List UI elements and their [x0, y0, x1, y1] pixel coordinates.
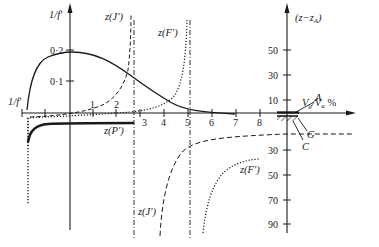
series-zJ-lower — [160, 134, 352, 236]
y-right-tick-90-down: 90 — [268, 219, 278, 230]
x-tick-label-8: 8 — [257, 117, 262, 128]
y-right-axis-label: (z−zA) — [295, 12, 322, 25]
curve-label-inv-f: 1/f' — [8, 96, 22, 107]
label-zJ-top: z(J') — [104, 11, 123, 23]
y-right-tick-30-down: 30 — [268, 145, 278, 156]
y-axis-right: 50 30 10 30 50 70 90 (z−zA) A G C — [268, 3, 322, 233]
chart-svg: 1 2 3 4 5 6 7 8 Vg/Va % 0·2 0·1 1/f' 1/f… — [0, 0, 379, 247]
x-tick-label-6: 6 — [209, 117, 214, 128]
y-left-axis-label: 1/f' — [49, 9, 63, 20]
label-zJ-bottom: z(J') — [137, 206, 156, 218]
x-tick-label-7: 7 — [233, 117, 238, 128]
label-zF-top: z(F') — [157, 27, 178, 39]
y-right-tick-10: 10 — [268, 95, 278, 106]
x-tick-label-1: 1 — [90, 99, 95, 110]
y-left-tick-0.1: 0·1 — [50, 76, 63, 87]
label-C: C — [302, 141, 310, 152]
y-axis-left-arrow-icon — [68, 3, 73, 13]
y-right-tick-50: 50 — [268, 45, 278, 56]
y-right-tick-50-down: 50 — [268, 170, 278, 181]
label-A: A — [314, 92, 322, 103]
y-right-tick-70-down: 70 — [268, 195, 278, 206]
y-axis-right-arrow-icon — [285, 3, 290, 13]
y-right-tick-30: 30 — [268, 70, 278, 81]
x-tick-label-3: 3 — [142, 117, 147, 128]
label-zP: z(P') — [103, 125, 124, 137]
label-zF-bottom: z(F') — [239, 164, 260, 176]
x-tick-label-4: 4 — [161, 117, 166, 128]
chart-figure: 1 2 3 4 5 6 7 8 Vg/Va % 0·2 0·1 1/f' 1/f… — [0, 0, 379, 247]
x-axis-arrow-icon — [346, 111, 356, 116]
x-tick-label-5: 5 — [185, 117, 190, 128]
x-tick-label-2: 2 — [114, 99, 119, 110]
